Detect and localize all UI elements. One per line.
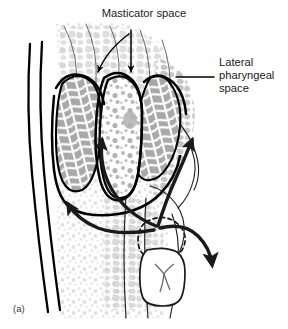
lateral-pharyngeal-space-label-line2: pharyngeal xyxy=(219,69,274,81)
masticator-space-diagram: Masticator space Lateral pharyngeal spac… xyxy=(0,0,288,329)
lateral-pharyngeal-space-label-line3: space xyxy=(219,82,249,94)
masticator-space-label: Masticator space xyxy=(102,7,187,19)
lateral-pharyngeal-space-label-line1: Lateral xyxy=(219,56,253,68)
anatomical-figure-panel: Masticator space Lateral pharyngeal spac… xyxy=(0,0,288,329)
mandibular-molar xyxy=(140,248,185,306)
panel-label: (a) xyxy=(13,303,25,314)
